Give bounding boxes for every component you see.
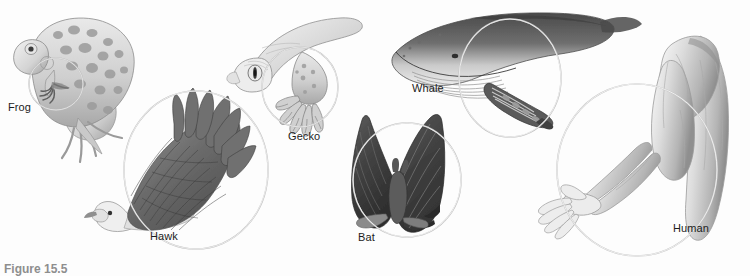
specimen-bat: [351, 115, 461, 237]
label-whale: Whale: [412, 82, 444, 94]
label-hawk: Hawk: [150, 230, 178, 242]
label-human: Human: [673, 222, 709, 234]
label-gecko: Gecko: [288, 130, 320, 142]
figure-caption: Figure 15.5: [4, 262, 67, 276]
specimen-gecko: [227, 18, 362, 136]
label-bat: Bat: [358, 231, 375, 243]
specimen-frog: [14, 18, 135, 162]
label-frog: Frog: [8, 101, 31, 113]
